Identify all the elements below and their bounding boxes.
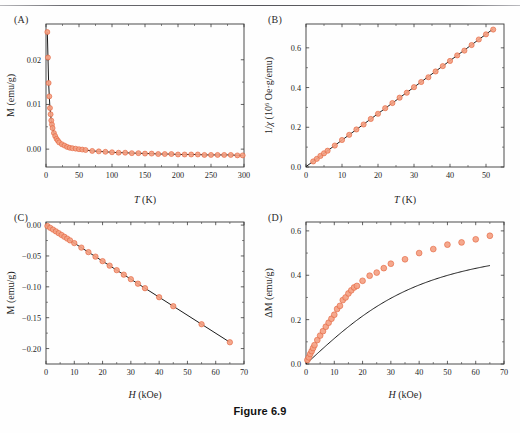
svg-text:M (emu/g): M (emu/g) bbox=[5, 74, 17, 117]
svg-text:20: 20 bbox=[98, 368, 106, 377]
svg-text:20: 20 bbox=[358, 368, 366, 377]
svg-text:1/χ (106 Oe·g/emu): 1/χ (106 Oe·g/emu) bbox=[263, 57, 276, 134]
svg-text:10: 10 bbox=[338, 171, 346, 180]
panel-b-label: (B) bbox=[268, 14, 282, 25]
figure-caption: Figure 6.9 bbox=[0, 405, 520, 417]
svg-text:20: 20 bbox=[374, 171, 382, 180]
panel-d-label: (D) bbox=[268, 212, 282, 223]
svg-text:0.01: 0.01 bbox=[27, 100, 41, 109]
panel-b: (B) 010203040500.00.20.40.6T (K)1/χ (106… bbox=[258, 10, 520, 205]
panel-a: (A) 0501001502002503000.000.010.02T (K)M… bbox=[0, 10, 260, 205]
svg-text:0.02: 0.02 bbox=[27, 56, 41, 65]
panel-d-plot: 0102030405060700.00.20.40.6H (kOe)ΔM (em… bbox=[258, 208, 520, 400]
svg-text:−0.15: −0.15 bbox=[22, 314, 41, 323]
svg-text:50: 50 bbox=[183, 368, 191, 377]
svg-text:40: 40 bbox=[155, 368, 163, 377]
svg-text:30: 30 bbox=[410, 171, 418, 180]
svg-text:0.2: 0.2 bbox=[291, 123, 301, 132]
panel-c-plot: 0102030405060700.00−0.05−0.10−0.15−0.20H… bbox=[0, 208, 260, 400]
svg-text:0: 0 bbox=[304, 368, 308, 377]
svg-text:70: 70 bbox=[240, 368, 248, 377]
svg-text:200: 200 bbox=[172, 171, 184, 180]
svg-text:50: 50 bbox=[443, 368, 451, 377]
svg-text:T (K): T (K) bbox=[134, 194, 156, 205]
svg-text:30: 30 bbox=[387, 368, 395, 377]
svg-text:0: 0 bbox=[44, 368, 48, 377]
svg-text:0.00: 0.00 bbox=[27, 221, 41, 230]
svg-text:10: 10 bbox=[70, 368, 78, 377]
svg-text:H (kOe): H (kOe) bbox=[387, 389, 421, 400]
svg-text:0.6: 0.6 bbox=[291, 44, 301, 53]
svg-text:40: 40 bbox=[446, 171, 454, 180]
svg-text:10: 10 bbox=[330, 368, 338, 377]
svg-text:−0.05: −0.05 bbox=[22, 252, 41, 261]
top-divider-rule bbox=[0, 5, 520, 6]
svg-text:0.4: 0.4 bbox=[291, 84, 301, 93]
panel-d: (D) 0102030405060700.00.20.40.6H (kOe)ΔM… bbox=[258, 208, 520, 400]
svg-text:30: 30 bbox=[127, 368, 135, 377]
svg-text:50: 50 bbox=[482, 171, 490, 180]
svg-text:0.2: 0.2 bbox=[291, 316, 301, 325]
svg-text:M (emu/g): M (emu/g) bbox=[5, 271, 17, 314]
svg-text:ΔM (emu/g): ΔM (emu/g) bbox=[263, 268, 275, 317]
svg-text:T (K): T (K) bbox=[394, 194, 416, 205]
panel-c-label: (C) bbox=[14, 212, 28, 223]
svg-text:150: 150 bbox=[139, 171, 151, 180]
svg-text:0.00: 0.00 bbox=[27, 145, 41, 154]
svg-text:50: 50 bbox=[75, 171, 83, 180]
svg-text:250: 250 bbox=[205, 171, 217, 180]
svg-text:0.0: 0.0 bbox=[291, 163, 301, 172]
svg-text:60: 60 bbox=[472, 368, 480, 377]
svg-text:70: 70 bbox=[500, 368, 508, 377]
figure-page: (A) 0501001502002503000.000.010.02T (K)M… bbox=[0, 0, 520, 433]
svg-text:0.6: 0.6 bbox=[291, 227, 301, 236]
svg-text:0: 0 bbox=[44, 171, 48, 180]
panel-c: (C) 0102030405060700.00−0.05−0.10−0.15−0… bbox=[0, 208, 260, 400]
svg-text:100: 100 bbox=[106, 171, 118, 180]
svg-text:0.4: 0.4 bbox=[291, 271, 301, 280]
svg-text:0.0: 0.0 bbox=[291, 360, 301, 369]
svg-text:−0.10: −0.10 bbox=[22, 283, 41, 292]
svg-text:0: 0 bbox=[304, 171, 308, 180]
svg-text:60: 60 bbox=[212, 368, 220, 377]
panel-b-plot: 010203040500.00.20.40.6T (K)1/χ (106 Oe·… bbox=[258, 10, 520, 205]
panel-a-plot: 0501001502002503000.000.010.02T (K)M (em… bbox=[0, 10, 260, 205]
panel-a-label: (A) bbox=[14, 14, 28, 25]
svg-text:−0.20: −0.20 bbox=[22, 345, 41, 354]
svg-text:H (kOe): H (kOe) bbox=[127, 389, 161, 400]
svg-text:40: 40 bbox=[415, 368, 423, 377]
svg-text:300: 300 bbox=[238, 171, 250, 180]
